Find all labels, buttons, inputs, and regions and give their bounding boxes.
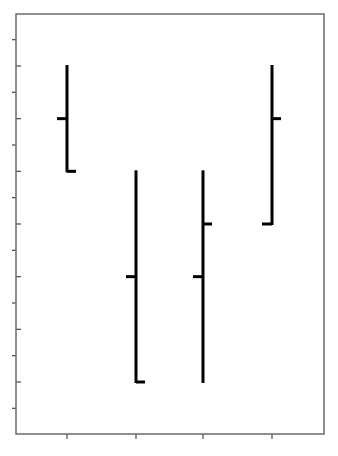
plot-frame bbox=[16, 14, 324, 434]
ohlc-bars bbox=[57, 65, 281, 383]
ohlc-chart bbox=[0, 0, 338, 456]
ohlc-bar-2 bbox=[126, 170, 145, 383]
ohlc-bar-1 bbox=[57, 65, 76, 172]
ohlc-bar-4 bbox=[262, 65, 281, 225]
ohlc-bar-3 bbox=[193, 170, 212, 383]
